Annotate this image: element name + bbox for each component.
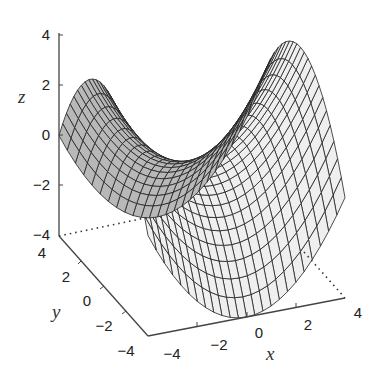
y-tick — [78, 261, 81, 264]
y-tick-label: −4 — [117, 342, 134, 359]
x-axis-label: x — [265, 343, 275, 364]
y-axis-label: y — [50, 301, 61, 322]
z-tick-label: 2 — [42, 76, 50, 93]
x-tick-label: 0 — [255, 324, 263, 341]
z-tick-label: 4 — [42, 26, 50, 43]
x-tick-label: 4 — [354, 304, 362, 321]
saddle-surface-plot: 4 2 0 −2 −4 z 4 2 0 −2 −4 y −4 −2 0 2 4 … — [0, 0, 381, 389]
y-tick — [100, 286, 104, 289]
y-tick-label: 0 — [83, 292, 91, 309]
z-tick-label: −4 — [33, 226, 50, 243]
x-tick-label: −2 — [210, 336, 227, 353]
z-tick-label: 0 — [42, 126, 50, 143]
x-tick-label: −4 — [163, 345, 180, 362]
back-dotted-line-x — [59, 217, 150, 236]
z-tick-label: −2 — [33, 176, 50, 193]
y-tick-label: −2 — [95, 317, 112, 334]
y-tick-label: 4 — [38, 244, 46, 261]
y-tick-label: 2 — [62, 268, 70, 285]
x-tick-label: 2 — [304, 316, 312, 333]
z-axis-label: z — [17, 86, 26, 107]
y-tick — [122, 311, 126, 314]
surface-mesh — [59, 41, 345, 318]
